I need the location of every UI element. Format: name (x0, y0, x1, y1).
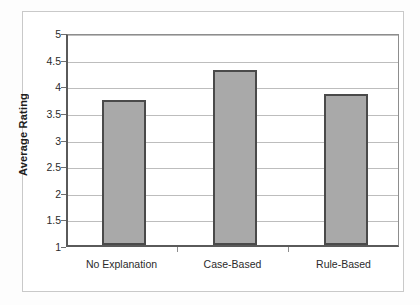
y-axis-tick-mark (61, 247, 66, 248)
y-axis-tick-label: 1.5 (46, 215, 61, 226)
y-axis-tick-labels: 54.543.532.521.51 (28, 34, 61, 247)
x-axis-tick-label: Rule-Based (316, 258, 371, 270)
y-axis-tick-mark (61, 34, 66, 35)
y-axis-tick-mark (61, 167, 66, 168)
y-axis-tick-mark (61, 114, 66, 115)
bar (102, 100, 146, 245)
x-axis-tick-label: Case-Based (204, 258, 262, 270)
y-axis-tick-mark (61, 220, 66, 221)
y-axis-tick-label: 3.5 (46, 108, 61, 119)
bar (324, 94, 368, 245)
y-axis-tick-mark (61, 61, 66, 62)
gridline (68, 62, 398, 63)
y-axis-tick-label: 2.5 (46, 162, 61, 173)
x-axis-tick-mark (288, 247, 289, 252)
x-axis-tick-label: No Explanation (86, 258, 157, 270)
y-axis-tick-mark (61, 194, 66, 195)
x-axis-tick-mark (177, 247, 178, 252)
y-axis-tick-mark (61, 141, 66, 142)
bar-chart-figure: Average Rating 54.543.532.521.51 No Expl… (0, 0, 420, 305)
y-axis-tick-mark (61, 87, 66, 88)
y-axis-tick-label: 4.5 (46, 55, 61, 66)
gridline (68, 35, 398, 36)
bar (213, 70, 257, 245)
plot-area (66, 34, 399, 247)
